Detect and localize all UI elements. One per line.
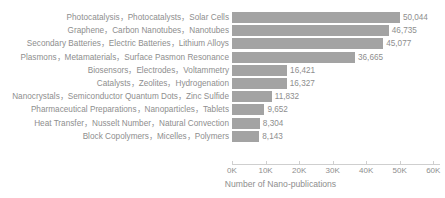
bar: [232, 38, 383, 49]
bar-track: [232, 12, 400, 23]
bar-track: [232, 65, 287, 76]
bar-value-label: 36,665: [358, 51, 383, 64]
x-tick-label: 50K: [393, 166, 407, 175]
bar-row: Secondary Batteries，Electric Batteries，L…: [0, 37, 445, 50]
x-tick-label: 60K: [426, 166, 440, 175]
x-axis-line: [232, 164, 440, 165]
bar-row: Catalysts，Zeolites，Hydrogenation16,327: [0, 77, 445, 90]
bar-row: Pharmaceutical Preparations，Nanoparticle…: [0, 103, 445, 116]
x-axis-title: Number of Nano-publications: [0, 179, 445, 189]
x-tick-label: 20K: [292, 166, 306, 175]
bar-value-label: 8,304: [263, 117, 284, 130]
x-tick-mark: [400, 161, 401, 164]
bar-category-label: Pharmaceutical Preparations，Nanoparticle…: [31, 103, 229, 116]
bar-category-label: Graphene，Carbon Nanotubes，Nanotubes: [68, 24, 229, 37]
bar-value-label: 45,077: [386, 37, 411, 50]
bar-row: Photocatalysis，Photocatalysts，Solar Cell…: [0, 11, 445, 24]
x-tick-label: 0K: [227, 166, 237, 175]
bar-track: [232, 38, 383, 49]
bar-track: [232, 118, 260, 129]
bar-value-label: 11,832: [275, 90, 299, 103]
bar-category-label: Block Copolymers，Micelles，Polymers: [83, 130, 229, 143]
bar: [232, 78, 287, 89]
x-tick-mark: [333, 161, 334, 164]
bar: [232, 25, 389, 36]
bar-category-label: Plasmons，Metamaterials，Surface Pasmon Re…: [20, 51, 229, 64]
bar-category-label: Biosensors，Electrodes，Voltammetry: [88, 64, 229, 77]
x-tick-mark: [366, 161, 367, 164]
bar-value-label: 16,421: [290, 64, 315, 77]
bar: [232, 12, 400, 23]
bar-category-label: Photocatalysis，Photocatalysts，Solar Cell…: [67, 11, 229, 24]
bar: [232, 104, 264, 115]
bar-row: Nanocrystals，Semiconductor Quantum Dots，…: [0, 90, 445, 103]
bar-category-label: Catalysts，Zeolites，Hydrogenation: [97, 77, 229, 90]
bar-row: Biosensors，Electrodes，Voltammetry16,421: [0, 64, 445, 77]
bar-row: Heat Transfer，Nusselt Number，Natural Con…: [0, 117, 445, 130]
bar-track: [232, 25, 389, 36]
bar-category-label: Secondary Batteries，Electric Batteries，L…: [27, 37, 229, 50]
bar-value-label: 8,143: [262, 130, 283, 143]
x-tick-mark: [266, 161, 267, 164]
bar-category-label: Heat Transfer，Nusselt Number，Natural Con…: [34, 117, 229, 130]
x-tick-label: 40K: [359, 166, 373, 175]
x-tick-mark: [232, 161, 233, 164]
bar-row: Graphene，Carbon Nanotubes，Nanotubes46,73…: [0, 24, 445, 37]
bar-row: Block Copolymers，Micelles，Polymers8,143: [0, 130, 445, 143]
bar: [232, 118, 260, 129]
bar: [232, 91, 272, 102]
bar-track: [232, 52, 355, 63]
bar-track: [232, 104, 264, 115]
x-tick-label: 30K: [326, 166, 340, 175]
bar-value-label: 16,327: [290, 77, 315, 90]
bar-category-label: Nanocrystals，Semiconductor Quantum Dots，…: [12, 90, 229, 103]
bar-track: [232, 131, 259, 142]
x-tick-label: 10K: [258, 166, 272, 175]
chart-rows: Photocatalysis，Photocatalysts，Solar Cell…: [0, 11, 445, 143]
bar-value-label: 50,044: [403, 11, 428, 24]
bar-value-label: 46,735: [392, 24, 417, 37]
nano-publications-bar-chart: Photocatalysis，Photocatalysts，Solar Cell…: [0, 0, 445, 198]
bar: [232, 65, 287, 76]
x-tick-mark: [299, 161, 300, 164]
bar-value-label: 9,652: [267, 103, 288, 116]
x-axis-title-text: Number of Nano-publications: [225, 179, 336, 189]
bar-track: [232, 91, 272, 102]
x-tick-mark: [433, 161, 434, 164]
bar: [232, 52, 355, 63]
bar: [232, 131, 259, 142]
bar-track: [232, 78, 287, 89]
bar-row: Plasmons，Metamaterials，Surface Pasmon Re…: [0, 51, 445, 64]
